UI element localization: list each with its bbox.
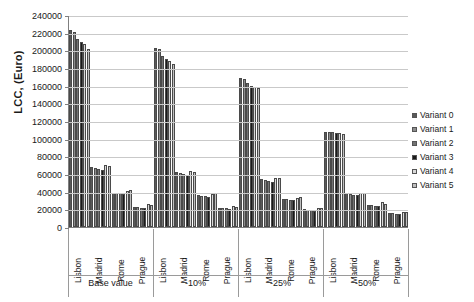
legend-swatch-icon	[412, 183, 417, 188]
y-axis-tick-label: 160000	[2, 83, 62, 92]
x-axis-category-labels: LisbonMadridRomePragueLisbonMadridRomePr…	[68, 229, 408, 275]
y-axis-tick-mark	[65, 157, 69, 158]
x-axis-group-labels: Base value-10%-25%-50%	[68, 275, 408, 296]
gridline	[69, 122, 408, 123]
gridline	[69, 87, 408, 88]
legend-swatch-icon	[412, 113, 417, 118]
y-axis-tick-label: 0	[2, 224, 62, 233]
gridline	[69, 104, 408, 105]
y-axis-tick-label: 120000	[2, 118, 62, 127]
legend-item[interactable]: Variant 0	[412, 108, 474, 122]
bar-chart: LCC, (Euro) 0200004000060000800001000001…	[0, 0, 474, 302]
legend-label: Variant 5	[420, 180, 453, 190]
legend-item[interactable]: Variant 1	[412, 122, 474, 136]
gridline	[69, 140, 408, 141]
y-axis-tick-label: 180000	[2, 65, 62, 74]
bar	[342, 134, 345, 227]
y-axis-tick-mark	[65, 210, 69, 211]
legend-label: Variant 3	[420, 152, 453, 162]
bar	[384, 204, 387, 227]
bar	[193, 172, 196, 227]
bar	[129, 190, 132, 227]
x-axis-group-label: -50%	[323, 278, 408, 289]
y-axis-tick-label: 240000	[2, 12, 62, 21]
plot-area	[68, 16, 408, 228]
y-axis-tick-mark	[65, 140, 69, 141]
x-axis-group-label: Base value	[68, 278, 153, 289]
y-axis-tick-mark	[65, 34, 69, 35]
legend-label: Variant 2	[420, 138, 453, 148]
y-axis-tick-label: 100000	[2, 136, 62, 145]
y-axis-tick-mark	[65, 69, 69, 70]
bar	[87, 49, 90, 227]
bar	[150, 205, 153, 227]
y-axis-tick-mark	[65, 175, 69, 176]
gridline	[69, 210, 408, 211]
y-axis-tick-mark	[65, 51, 69, 52]
legend-label: Variant 1	[420, 124, 453, 134]
legend-item[interactable]: Variant 2	[412, 136, 474, 150]
legend-swatch-icon	[412, 169, 417, 174]
gridline	[69, 16, 408, 17]
bar	[172, 64, 175, 227]
x-axis-group-label: -25%	[238, 278, 323, 289]
gridline	[69, 51, 408, 52]
y-axis-tick-mark	[65, 193, 69, 194]
y-axis-tick-mark	[65, 87, 69, 88]
bar	[299, 197, 302, 227]
bar	[278, 178, 281, 227]
legend-swatch-icon	[412, 127, 417, 132]
legend-label: Variant 0	[420, 110, 453, 120]
legend-item[interactable]: Variant 4	[412, 164, 474, 178]
y-axis-tick-mark	[65, 122, 69, 123]
legend-label: Variant 4	[420, 166, 453, 176]
y-axis-tick-mark	[65, 104, 69, 105]
x-axis-group-label: -10%	[153, 278, 238, 289]
legend-swatch-icon	[412, 141, 417, 146]
x-axis-category-cell: Prague	[374, 229, 420, 275]
y-axis-tick-label: 80000	[2, 153, 62, 162]
gridline	[69, 34, 408, 35]
chart-legend: Variant 0Variant 1Variant 2Variant 3Vari…	[412, 108, 474, 192]
gridline	[69, 193, 408, 194]
y-axis-tick-label: 220000	[2, 30, 62, 39]
group-separator	[408, 229, 409, 297]
gridline	[69, 175, 408, 176]
y-axis-tick-mark	[65, 16, 69, 17]
y-axis-tick-label: 200000	[2, 47, 62, 56]
bar	[405, 212, 408, 227]
gridline	[69, 157, 408, 158]
legend-item[interactable]: Variant 5	[412, 178, 474, 192]
y-axis-tick-label: 60000	[2, 171, 62, 180]
y-axis-tick-label: 140000	[2, 100, 62, 109]
y-axis-tick-label: 20000	[2, 206, 62, 215]
y-axis-tick-label: 40000	[2, 189, 62, 198]
legend-swatch-icon	[412, 155, 417, 160]
gridline	[69, 69, 408, 70]
legend-item[interactable]: Variant 3	[412, 150, 474, 164]
